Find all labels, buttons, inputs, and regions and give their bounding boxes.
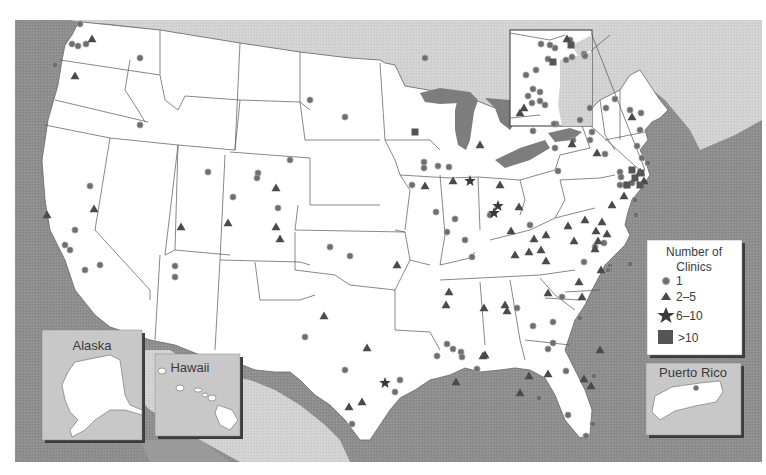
- marker-circle: [627, 107, 633, 113]
- marker-circle: [529, 100, 535, 106]
- marker-circle: [450, 346, 456, 352]
- marker-circle: [172, 263, 178, 269]
- marker-circle: [542, 102, 548, 108]
- marker-square: [632, 175, 639, 182]
- circle-icon: [663, 278, 670, 285]
- marker-circle: [525, 93, 531, 99]
- marker-circle: [287, 157, 293, 163]
- marker-circle: [52, 62, 58, 68]
- clinic-map: Alaska Hawaii Number of Clinics 1 2–5: [15, 20, 762, 462]
- marker-circle: [87, 183, 93, 189]
- marker-circle: [75, 43, 81, 49]
- marker-circle: [538, 41, 544, 47]
- marker-circle: [637, 127, 643, 133]
- marker-circle: [474, 366, 480, 372]
- marker-circle: [590, 421, 596, 427]
- legend-title-line1: Number of: [666, 245, 723, 259]
- marker-square: [637, 182, 644, 189]
- marker-circle: [617, 182, 623, 188]
- marker-circle: [62, 242, 68, 248]
- marker-circle: [422, 55, 428, 61]
- alaska-inset: Alaska: [42, 330, 145, 443]
- marker-circle: [527, 222, 533, 228]
- marker-circle: [77, 21, 83, 27]
- marker-circle: [563, 368, 569, 374]
- marker-circle: [421, 165, 427, 171]
- map-frame: Alaska Hawaii Number of Clinics 1 2–5: [15, 20, 762, 462]
- marker-square: [550, 59, 557, 66]
- marker-circle: [444, 229, 450, 235]
- marker-circle: [72, 227, 78, 233]
- marker-circle: [587, 105, 593, 111]
- marker-circle: [632, 197, 638, 203]
- marker-circle: [563, 57, 569, 63]
- marker-circle: [409, 182, 415, 188]
- legend-label-2-5: 2–5: [676, 290, 696, 304]
- marker-circle: [569, 54, 575, 60]
- marker-circle: [583, 433, 589, 439]
- marker-circle: [97, 262, 103, 268]
- marker-circle: [172, 274, 178, 280]
- marker-circle: [433, 209, 439, 215]
- marker-circle: [523, 72, 529, 78]
- marker-circle: [392, 389, 398, 395]
- marker-circle: [347, 253, 353, 259]
- marker-circle: [435, 163, 441, 169]
- marker-circle: [444, 341, 450, 347]
- marker-circle: [536, 395, 542, 401]
- marker-circle: [327, 244, 333, 250]
- marker-circle: [530, 86, 536, 92]
- marker-circle: [547, 42, 553, 48]
- legend-label-1: 1: [676, 274, 683, 288]
- puerto-rico-inset: Puerto Rico: [646, 363, 744, 438]
- marker-circle: [254, 175, 260, 181]
- puerto-rico-title: Puerto Rico: [659, 365, 727, 380]
- marker-circle: [555, 168, 561, 174]
- marker-circle: [307, 97, 313, 103]
- marker-circle: [459, 354, 465, 360]
- marker-circle: [530, 128, 536, 134]
- marker-circle: [67, 247, 73, 253]
- marker-circle: [633, 212, 639, 218]
- marker-square: [638, 170, 645, 177]
- marker-circle: [638, 110, 644, 116]
- marker-circle: [601, 240, 607, 246]
- northeast-zoom-inset: [510, 30, 592, 127]
- marker-circle: [591, 373, 597, 379]
- marker-circle: [645, 160, 651, 166]
- marker-circle: [302, 334, 308, 340]
- marker-circle: [514, 305, 520, 311]
- marker-circle: [469, 254, 475, 260]
- marker-square: [568, 42, 575, 49]
- marker-circle: [205, 169, 211, 175]
- marker-circle: [137, 122, 143, 128]
- marker-circle: [69, 41, 75, 47]
- marker-circle: [342, 367, 348, 373]
- marker-circle: [446, 164, 452, 170]
- marker-circle: [550, 340, 556, 346]
- marker-circle: [421, 159, 427, 165]
- square-icon: [658, 330, 673, 344]
- alaska-title: Alaska: [72, 338, 112, 353]
- marker-circle: [533, 67, 539, 73]
- marker-circle: [551, 121, 557, 127]
- marker-circle: [434, 353, 440, 359]
- marker-circle: [559, 294, 565, 300]
- legend-title-line2: Clinics: [676, 260, 711, 274]
- marker-square: [624, 182, 631, 189]
- marker-circle: [452, 216, 458, 222]
- marker-circle: [137, 55, 143, 61]
- hawaii-inset: Hawaii: [155, 354, 243, 439]
- marker-circle: [612, 96, 618, 102]
- marker-square: [629, 167, 636, 174]
- marker-circle: [582, 53, 588, 59]
- marker-circle: [550, 319, 556, 325]
- legend-label-6-10: 6–10: [676, 309, 703, 323]
- legend-item-square: >10: [658, 330, 699, 345]
- marker-circle: [530, 323, 536, 329]
- marker-circle: [603, 105, 609, 111]
- marker-circle: [618, 174, 624, 180]
- marker-circle: [342, 114, 348, 120]
- marker-circle: [545, 346, 551, 352]
- marker-circle: [577, 315, 583, 321]
